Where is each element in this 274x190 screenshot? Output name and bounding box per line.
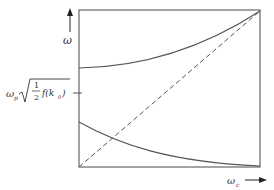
x-axis-label: ω bbox=[227, 175, 235, 186]
y-axis-arrow-icon bbox=[67, 8, 73, 32]
tick-label-close: ) bbox=[61, 88, 66, 98]
fraction-numerator: 1 bbox=[34, 81, 39, 90]
y-axis-label: ω bbox=[63, 34, 72, 47]
tick-label-subscript-p: p bbox=[14, 94, 18, 102]
diagonal-dashed-line bbox=[79, 11, 260, 167]
dispersion-diagram: ω ω p 1 2 f(k 0 ) ω c bbox=[0, 0, 274, 190]
x-axis-label-subscript: c bbox=[236, 181, 240, 188]
x-axis-arrow-icon bbox=[245, 177, 267, 183]
tick-label-omega: ω bbox=[6, 88, 14, 99]
fraction-denominator: 2 bbox=[34, 93, 39, 102]
tick-label: ω p 1 2 f(k 0 ) bbox=[6, 79, 70, 102]
upper-branch-curve bbox=[79, 11, 260, 68]
tick-label-function: f(k bbox=[41, 88, 54, 98]
